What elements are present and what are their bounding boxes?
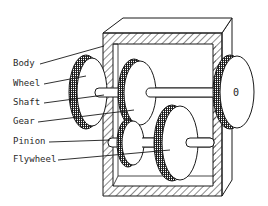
label-flywheel: Flywheel [13, 154, 56, 164]
label-shaft: Shaft [13, 97, 40, 107]
pinion [117, 119, 158, 167]
right-wheel: 0 [213, 55, 254, 129]
label-body: Body [13, 58, 35, 68]
pinion-leader [49, 140, 110, 142]
gearbox-diagram: 0 Body Wheel Sha [0, 0, 268, 206]
hub-mark: 0 [233, 87, 239, 98]
gearbox-drawing: 0 [0, 0, 268, 206]
flywheel-leader [58, 150, 170, 160]
label-pinion: Pinion [13, 136, 46, 146]
label-wheel: Wheel [13, 78, 40, 88]
flywheel [154, 105, 214, 181]
label-gear: Gear [13, 116, 35, 126]
